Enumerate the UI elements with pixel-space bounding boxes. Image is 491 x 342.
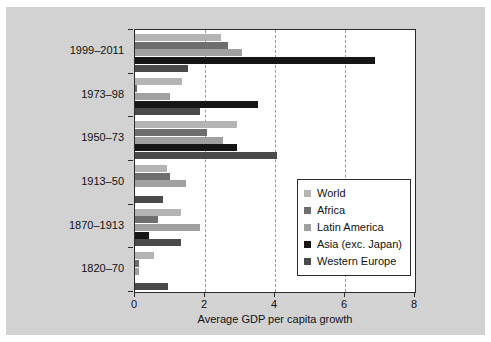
bar — [135, 165, 167, 172]
bar — [135, 152, 277, 159]
bar — [135, 232, 149, 239]
bar — [135, 196, 163, 203]
bar — [135, 144, 237, 151]
y-tick — [128, 29, 133, 30]
bar — [135, 224, 200, 231]
y-axis-tick-label: 1870–1913 — [20, 219, 124, 231]
bar — [135, 283, 168, 290]
x-axis-title: Average GDP per capita growth — [134, 313, 416, 325]
legend-item-western-europe: Western Europe — [304, 253, 402, 270]
bar — [135, 260, 139, 267]
legend-label: Africa — [317, 205, 345, 216]
x-tick — [134, 293, 135, 297]
y-tick — [128, 160, 133, 161]
bar — [135, 129, 207, 136]
bar — [135, 65, 188, 72]
bar — [135, 85, 137, 92]
x-tick — [344, 293, 345, 297]
x-axis-tick-label: 0 — [119, 298, 149, 310]
y-axis-tick-label: 1973–98 — [20, 88, 124, 100]
legend-label: Asia (exc. Japan) — [317, 239, 402, 250]
bar — [135, 101, 258, 108]
chart-legend: WorldAfricaLatin AmericaAsia (exc. Japan… — [297, 179, 411, 276]
legend-label: Western Europe — [317, 256, 396, 267]
legend-item-latin-america: Latin America — [304, 219, 402, 236]
x-tick — [414, 293, 415, 297]
legend-swatch-icon — [304, 241, 311, 248]
bar — [135, 121, 237, 128]
x-tick — [204, 293, 205, 297]
bar — [135, 49, 242, 56]
bar — [135, 209, 181, 216]
x-axis-tick-label: 2 — [189, 298, 219, 310]
legend-swatch-icon — [304, 207, 311, 214]
y-axis-tick-label: 1950–73 — [20, 131, 124, 143]
legend-swatch-icon — [304, 258, 311, 265]
y-axis-tick-label: 1913–50 — [20, 175, 124, 187]
y-axis-tick-label: 1820–70 — [20, 262, 124, 274]
legend-label: Latin America — [317, 222, 384, 233]
x-axis-tick-label: 4 — [259, 298, 289, 310]
y-tick — [128, 116, 133, 117]
bar — [135, 78, 182, 85]
bar — [135, 108, 200, 115]
gridline-x-2 — [205, 30, 206, 292]
bar — [135, 216, 158, 223]
y-axis-tick-label: 1999–2011 — [20, 44, 124, 56]
figure-background: 02468 1999–20111973–981950–731913–501870… — [6, 7, 485, 335]
x-axis-tick-label: 6 — [329, 298, 359, 310]
bar — [135, 57, 375, 64]
legend-item-asia-exc-japan: Asia (exc. Japan) — [304, 236, 402, 253]
x-axis-line — [134, 292, 416, 293]
x-tick — [274, 293, 275, 297]
legend-swatch-icon — [304, 224, 311, 231]
bar — [135, 180, 186, 187]
bar — [135, 137, 223, 144]
y-tick — [128, 204, 133, 205]
x-axis-tick-label: 8 — [399, 298, 429, 310]
y-tick — [128, 291, 133, 292]
bar — [135, 34, 221, 41]
y-tick — [128, 247, 133, 248]
y-tick — [128, 73, 133, 74]
bar — [135, 42, 228, 49]
legend-item-africa: Africa — [304, 202, 402, 219]
bar — [135, 93, 170, 100]
legend-label: World — [317, 188, 346, 199]
legend-item-world: World — [304, 185, 402, 202]
bar — [135, 173, 170, 180]
bar — [135, 252, 154, 259]
bar — [135, 239, 181, 246]
gridline-x-4 — [275, 30, 276, 292]
bar — [135, 268, 139, 275]
legend-swatch-icon — [304, 190, 311, 197]
